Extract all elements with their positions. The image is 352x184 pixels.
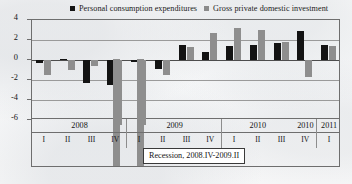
bar-pce bbox=[274, 43, 281, 60]
y-axis-tick-label: 4 bbox=[0, 14, 18, 22]
bar-gpdi bbox=[44, 60, 51, 75]
recession-annotation-box: Recession, 2008.IV-2009.II bbox=[143, 148, 245, 164]
band-separator bbox=[221, 133, 222, 148]
bar-gpdi bbox=[163, 60, 170, 75]
bar-pce bbox=[155, 60, 162, 69]
bar-pce bbox=[60, 59, 67, 60]
x-axis-quarter-label: I bbox=[320, 135, 338, 145]
x-axis-quarter-label: I bbox=[35, 135, 53, 145]
bar-pce bbox=[226, 46, 233, 60]
bar-gpdi bbox=[91, 60, 98, 66]
x-axis-quarter-label: III bbox=[82, 135, 100, 145]
band-separator bbox=[126, 133, 127, 148]
bar-pce bbox=[321, 45, 328, 60]
x-axis-quarter-band: IIIIIIIVIIIIIIIVIIIIIIIVI bbox=[31, 133, 340, 148]
y-axis-tick-label: -4 bbox=[0, 94, 18, 102]
x-axis-quarter-label: IV bbox=[296, 135, 314, 145]
band-separator bbox=[221, 119, 222, 133]
x-axis-quarter-label: I bbox=[225, 135, 243, 145]
bar-pce bbox=[250, 45, 257, 60]
x-axis-quarter-label: II bbox=[249, 135, 267, 145]
bar-pce bbox=[202, 52, 209, 60]
x-axis-quarter-label: II bbox=[59, 135, 77, 145]
x-axis-year-label: 2011 bbox=[309, 121, 349, 131]
bar-gpdi bbox=[210, 33, 217, 60]
bar-gpdi bbox=[68, 60, 75, 70]
band-separator bbox=[316, 133, 317, 148]
x-axis-quarter-label: IV bbox=[106, 135, 124, 145]
axis-bottom-rule bbox=[31, 166, 340, 167]
bar-gpdi bbox=[329, 46, 336, 60]
band-separator bbox=[126, 119, 127, 133]
band-separator bbox=[316, 119, 317, 133]
bar-gpdi bbox=[305, 60, 312, 77]
x-axis-quarter-label: III bbox=[178, 135, 196, 145]
y-axis-tick-label: -6 bbox=[0, 114, 18, 122]
bar-gpdi bbox=[187, 47, 194, 60]
bar-gpdi bbox=[258, 30, 265, 60]
x-axis-year-band: 20082009201020102011 bbox=[31, 119, 340, 133]
x-axis-year-label: 2008 bbox=[60, 121, 100, 131]
chart-figure: Personal consumption expenditures Gross … bbox=[0, 0, 352, 184]
y-axis-tick-label: 2 bbox=[0, 34, 18, 42]
recession-marker bbox=[113, 59, 120, 166]
bar-pce bbox=[297, 31, 304, 60]
x-axis-quarter-label: IV bbox=[201, 135, 219, 145]
bar-pce bbox=[179, 45, 186, 60]
x-axis-year-label: 2009 bbox=[155, 121, 195, 131]
bar-gpdi bbox=[234, 28, 241, 60]
y-axis-tick-label: -2 bbox=[0, 74, 18, 82]
bar-pce bbox=[83, 60, 90, 83]
bar-gpdi bbox=[282, 42, 289, 60]
plot-area bbox=[31, 19, 340, 119]
x-axis-year-label: 2010 bbox=[238, 121, 278, 131]
bar-series-container bbox=[32, 20, 339, 118]
axis-left-rule bbox=[31, 119, 32, 166]
y-axis-tick-label: 0 bbox=[0, 54, 18, 62]
x-axis-quarter-label: III bbox=[273, 135, 291, 145]
bar-pce bbox=[36, 60, 43, 63]
x-axis-quarter-label: II bbox=[154, 135, 172, 145]
x-axis-quarter-label: I bbox=[130, 135, 148, 145]
axis-right-rule bbox=[339, 19, 340, 166]
